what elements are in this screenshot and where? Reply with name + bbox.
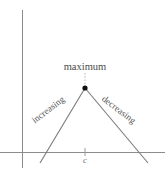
- decreasing-branch-line: [85, 88, 148, 163]
- increasing-label: increasing: [30, 94, 67, 125]
- maximum-label: maximum: [64, 61, 107, 72]
- x-tick-label-c: c: [83, 155, 87, 165]
- figure-canvas: maximum increasing decreasing c: [0, 0, 165, 169]
- decreasing-label: decreasing: [100, 94, 138, 126]
- calculus-maximum-diagram: maximum increasing decreasing c: [0, 0, 165, 169]
- maximum-point-marker: [82, 85, 87, 90]
